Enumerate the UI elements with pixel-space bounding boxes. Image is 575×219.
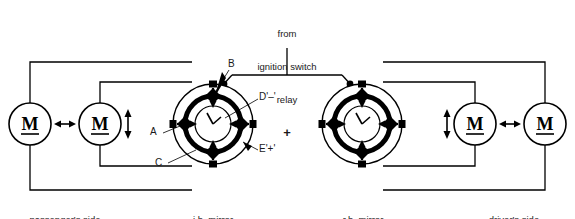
caption-lh-line1: i.h. mirror (155, 214, 271, 219)
power-feed-line1: from (237, 28, 337, 39)
caption-rh-mirror-switch: r.h. mirror switch (305, 192, 421, 219)
wire-inner-bottom-right (383, 145, 475, 166)
caption-lh-mirror-switch: i.h. mirror switch (155, 192, 271, 219)
wire-outer-bottom-right (383, 145, 545, 190)
vertical-motion-arrow-left (125, 109, 132, 139)
passenger-horizontal-motor: M (9, 103, 51, 145)
terminal-square-bottom (209, 161, 217, 168)
vertical-motion-arrow-right (444, 109, 451, 139)
power-feed-line3: relay (237, 94, 337, 105)
driver-horizontal-motor: M (524, 103, 566, 145)
wiring-diagram: M M M M (0, 0, 575, 219)
power-feed-label: from ignition switch relay + (237, 6, 337, 161)
caption-driver-line1: driver's side (455, 214, 573, 219)
terminal-label-C: C (155, 157, 162, 168)
caption-rh-line1: r.h. mirror (305, 214, 421, 219)
caption-drivers-side-mirror: driver's side mirror (455, 192, 573, 219)
wire-inner-bottom-left (100, 145, 192, 166)
caption-passenger-side-mirror: passenger's side mirror (0, 192, 130, 219)
svg-text:M: M (92, 114, 109, 134)
driver-vertical-motor: M (454, 103, 496, 145)
terminal-square-right-right-switch (399, 120, 406, 128)
horizontal-motion-arrow-left (54, 121, 76, 128)
caption-passenger-line1: passenger's side (0, 214, 130, 219)
terminal-label-D: D'–' (259, 91, 276, 102)
wire-inner-top-left (100, 82, 192, 103)
svg-text:M: M (22, 114, 39, 134)
power-feed-polarity: + (237, 127, 337, 139)
terminal-square-bottom-right-switch (358, 161, 366, 168)
horizontal-motion-arrow-right (499, 121, 521, 128)
terminal-label-A: A (150, 126, 157, 137)
wire-outer-bottom-left (30, 145, 192, 190)
passenger-vertical-motor: M (79, 103, 121, 145)
svg-text:M: M (537, 114, 554, 134)
terminal-square-left (170, 120, 177, 128)
terminal-square-top-right-switch (358, 81, 366, 88)
wire-inner-top-right (383, 82, 475, 103)
svg-text:M: M (467, 114, 484, 134)
power-feed-line2: ignition switch (237, 61, 337, 72)
terminal-square-top (209, 81, 217, 88)
terminal-label-B: B (228, 58, 235, 69)
terminal-label-E: E'+' (259, 143, 275, 154)
